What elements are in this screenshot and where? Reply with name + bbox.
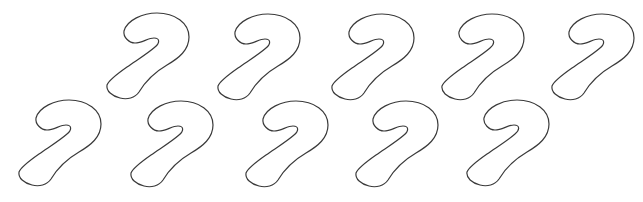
candy-cane-icon	[354, 100, 444, 192]
candy-cane-icon	[550, 13, 640, 105]
candy-cane-icon	[440, 13, 530, 105]
candy-cane-icon	[244, 100, 334, 192]
canvas	[0, 0, 643, 202]
candy-cane-icon	[105, 12, 195, 104]
candy-cane-icon	[330, 13, 420, 105]
candy-cane-icon	[129, 100, 219, 192]
candy-cane-icon	[17, 99, 107, 191]
candy-cane-icon	[216, 13, 306, 105]
candy-cane-icon	[465, 99, 555, 191]
